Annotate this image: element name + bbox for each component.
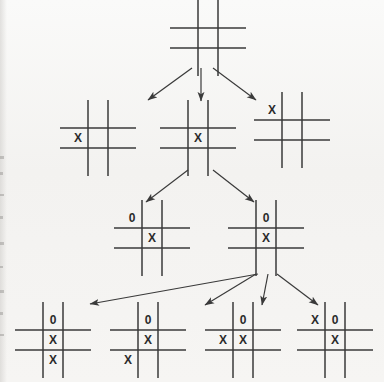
game-tree-diagram: XXX0X0X0XX0XX0XXX0X	[0, 0, 384, 382]
arrow-l2right-to-l3a	[90, 274, 258, 304]
board-mark-x: X	[124, 354, 132, 366]
root-empty-board	[170, 0, 246, 76]
arrow-middle-to-l2-left	[146, 170, 188, 202]
level1-board-right	[254, 92, 330, 168]
board-mark-x: X	[194, 132, 202, 144]
arrow-l2right-to-l3c	[262, 274, 268, 305]
board-mark-x: X	[49, 334, 57, 346]
board-mark-o: 0	[240, 314, 247, 326]
board-mark-x: X	[239, 334, 247, 346]
board-mark-x: X	[311, 314, 319, 326]
board-mark-x: X	[262, 232, 270, 244]
board-mark-o: 0	[50, 314, 57, 326]
board-mark-x: X	[331, 334, 339, 346]
board-mark-o: 0	[332, 314, 339, 326]
board-mark-o: 0	[145, 314, 152, 326]
arrow-middle-to-l2-right	[213, 170, 254, 202]
board-mark-x: X	[144, 334, 152, 346]
board-mark-o: 0	[263, 212, 270, 224]
arrow-root-to-left	[148, 68, 192, 100]
board-mark-x: X	[148, 232, 156, 244]
board-mark-x: X	[268, 104, 276, 116]
board-mark-o: 0	[129, 212, 136, 224]
arrow-l2right-to-l3d	[277, 274, 318, 305]
board-mark-x: X	[49, 354, 57, 366]
level1-board-left	[60, 100, 136, 176]
move-arrows	[90, 68, 318, 305]
board-mark-x: X	[219, 334, 227, 346]
board-mark-x: X	[74, 132, 82, 144]
board-grid-lines	[15, 0, 373, 378]
boards-and-arrows-layer	[0, 0, 384, 382]
arrow-root-to-right	[213, 68, 256, 100]
